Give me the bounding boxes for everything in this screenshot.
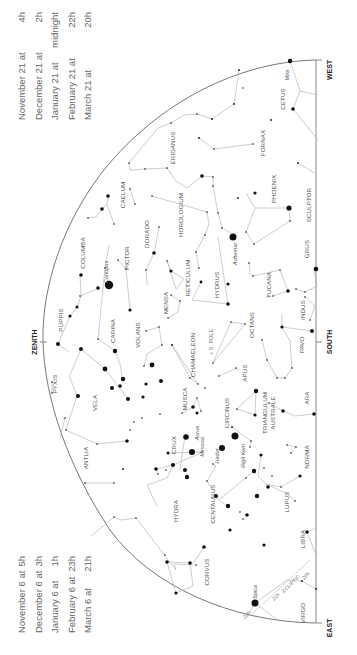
label-phoenix: PHOENIX [270,175,277,204]
label-chamaeleon: CHAMAELEON [189,333,196,377]
south-pole-label: + S. POLE [208,329,214,355]
label-achernar: Achernar [232,242,238,267]
label-horologium: HOROLOGIUM [177,193,184,237]
label-virgo: VIRGO [299,603,306,624]
time-east-date-4: March 6 at [82,588,93,633]
label-antlia: ANTLIA [82,446,89,469]
times-west-table: November 21 at 4h December 21 at 2h Janu… [16,12,93,120]
east-label: EAST [326,618,333,637]
label-mimosa: Mimosa [199,437,205,457]
constellation-labels: CETUS ERIDANUS FORNAX SCULPTOR PHOENIX C… [51,88,312,623]
time-east-time-3: 23h [66,556,77,572]
label-mensa: MENSA [162,291,169,314]
label-circinus: CIRCINUS [223,398,230,429]
label-vela: VELA [91,394,98,411]
label-pictor: PICTOR [123,246,130,270]
label-sculptor: SCULPTOR [305,187,312,222]
label-cetus: CETUS [279,88,286,109]
ecliptic-21h: 21h [270,591,281,602]
label-fornax: FORNAX [259,130,266,156]
time-east-date-2: January 6 at [49,580,60,633]
label-hadar: Hadar [214,447,220,463]
label-centaurus: CENTAURUS [209,485,216,524]
time-east-date-1: December 6 at [33,570,44,633]
star-mimosa [189,449,195,455]
label-pavo: PAVO [298,337,305,354]
label-australe: AUSTRALE [269,396,276,429]
label-musca: MUSCA [181,387,188,411]
label-pyxis: PYXIS [51,375,58,394]
stars [51,59,318,607]
label-grus: GRUS [303,240,310,258]
time-west-date-2: January 21 at [49,62,60,120]
label-eridanus: ERIDANUS [169,132,176,165]
star-acrux [183,434,189,440]
star-rigil-kent [232,433,239,440]
time-east-time-1: 3h [33,556,44,567]
label-caelum: CAELUM [119,182,126,208]
label-carina: CARINA [109,318,116,343]
time-west-date-0: November 21 at [16,52,27,120]
label-rigil-kent: Rigil Kent [240,444,246,468]
label-indus: INDUS [299,300,306,320]
star-chart: WEST SOUTH EAST ZENITH November 21 at 4h… [0,0,357,655]
constellation-lines [52,61,318,620]
ecliptic-label: ECLIPTIC [281,573,301,593]
label-columba: COLUMBA [79,237,86,269]
label-mira: Mira [284,70,290,81]
label-norma: NORMA [303,444,310,468]
time-west-time-2: midnight [49,12,60,48]
time-east-time-0: 5h [16,556,27,567]
time-west-date-4: March 21 at [82,69,93,120]
time-west-time-1: 2h [33,12,44,23]
label-corvus: CORVUS [203,559,210,586]
label-ara: ARA [303,391,310,405]
label-spica: Spica [252,585,258,599]
label-hydra: HYDRA [172,499,179,522]
star-achernar [230,234,237,241]
horizon-arc [43,60,316,623]
time-east-date-0: November 6 at [16,570,27,633]
label-libra: LIBRA [299,529,306,548]
star-spica [252,600,259,607]
time-west-date-1: December 21 at [33,52,44,120]
label-tucana: TUCANA [265,271,272,298]
star-mira [288,59,292,63]
label-hydrus: HYDRUS [213,272,220,299]
time-east-time-4: 21h [82,556,93,572]
label-canopus: Canopus [103,261,109,284]
label-crux: CRUX [170,436,177,454]
label-volans: VOLANS [134,322,141,348]
south-label: SOUTH [326,330,333,355]
time-west-time-0: 4h [16,12,27,23]
label-puppis: PUPPIS [57,308,64,331]
times-east-table: November 6 at 5h December 6 at 3h Januar… [16,556,93,633]
zenith-label: ZENITH [31,329,38,354]
time-west-time-4: 20h [82,12,93,28]
label-dorado: DORADO [143,220,150,248]
ecliptic-20h: 20h [300,570,311,581]
time-east-time-2: 1h [49,556,60,567]
label-lupus: LUPUS [283,491,290,512]
time-west-date-3: February 21 at [66,58,77,120]
label-octans: OCTANS [248,312,255,338]
label-apus: APUS [241,364,248,381]
label-triangulum: TRIANGULUM [261,392,268,434]
label-reticulum: RETICULUM [184,260,191,297]
time-west-time-3: 22h [66,12,77,28]
west-label: WEST [326,59,333,80]
time-east-date-3: February 6 at [66,576,77,633]
